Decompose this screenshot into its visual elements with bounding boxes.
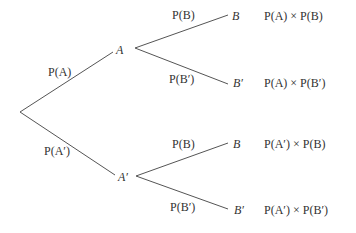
node-B-after-A-prime: B [233,138,240,150]
node-B-prime-after-A-prime: B′ [234,204,244,216]
branch-label-P-A-prime: P(A′) [44,145,70,157]
node-B-after-A: B [232,10,239,22]
node-A-prime: A′ [118,171,128,183]
product-A-prime-and-B: P(A′) × P(B) [264,138,325,150]
product-A-and-B: P(A) × P(B) [264,10,323,22]
branch-label-P-B-after-A-prime: P(B) [172,138,195,150]
node-B-prime-after-A: B′ [233,77,243,89]
branch-label-P-B-prime-after-A-prime: P(B′) [170,201,195,213]
branch-label-P-A: P(A) [48,66,71,78]
branch-label-P-B-after-A: P(B) [172,9,195,21]
tree-diagram [0,0,356,233]
product-A-and-B-prime: P(A) × P(B′) [264,77,325,89]
node-A: A [116,44,123,56]
branch-root-to-A [20,52,113,112]
product-A-prime-and-B-prime: P(A′) × P(B′) [264,204,328,216]
branch-label-P-B-prime-after-A: P(B′) [169,73,194,85]
